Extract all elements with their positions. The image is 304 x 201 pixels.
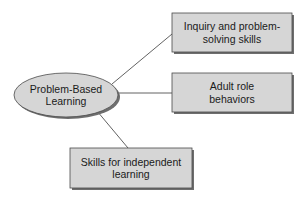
node-inquiry-label: Inquiry and problem-solving skills [172,13,292,52]
node-independent-label: Skills for independentlearning [70,148,192,188]
node-adult-role-label: Adult rolebehaviors [172,73,292,112]
connector-line [112,34,172,84]
center-node-label: Problem-BasedLearning [14,73,118,117]
